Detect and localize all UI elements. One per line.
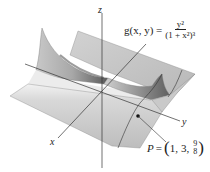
surface-plot-figure: z y x g(x, y) = y² (1 + x²)³ P = ( 1, 3,… <box>0 0 210 172</box>
function-denominator: (1 + x²)³ <box>165 30 195 40</box>
point-y: 3, <box>181 142 189 154</box>
function-fraction: y² (1 + x²)³ <box>165 19 195 40</box>
y-axis-label: y <box>182 117 186 127</box>
point-eq: = <box>156 142 162 154</box>
z-axis-label: z <box>98 5 102 15</box>
function-numerator: y² <box>175 19 186 30</box>
function-lhs: g(x, y) = <box>124 24 162 36</box>
point-name: P <box>147 142 154 154</box>
right-paren: ) <box>198 139 204 156</box>
x-axis-label: x <box>50 137 54 147</box>
point-z-denominator: 8 <box>193 148 197 156</box>
point-x: 1, <box>170 142 178 154</box>
point-z-fraction: 9 8 <box>193 140 197 156</box>
point-label: P = ( 1, 3, 9 8 ) <box>147 139 204 156</box>
function-label: g(x, y) = y² (1 + x²)³ <box>124 19 195 40</box>
